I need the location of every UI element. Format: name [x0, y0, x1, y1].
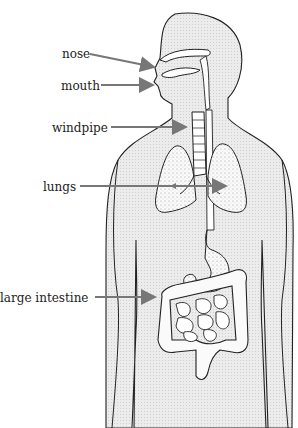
anatomy-diagram: nose mouth windpipe lungs large intestin…	[0, 0, 298, 428]
body-illustration	[0, 0, 298, 428]
label-windpipe: windpipe	[52, 121, 108, 135]
label-nose: nose	[62, 47, 90, 61]
label-mouth: mouth	[61, 79, 100, 93]
label-large-intestine: large intestine	[0, 291, 88, 305]
label-lungs: lungs	[43, 180, 76, 194]
